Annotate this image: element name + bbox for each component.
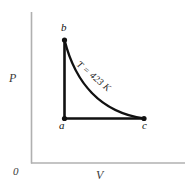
diagram-canvas: [0, 0, 185, 185]
point-label-c: c: [142, 120, 147, 131]
pv-diagram-figure: P V 0 b a c T = 423 K: [0, 0, 185, 185]
y-axis-label: P: [9, 72, 16, 84]
origin-label: 0: [13, 166, 19, 177]
point-label-a: a: [59, 120, 65, 131]
x-axis-label: V: [96, 169, 103, 181]
point-label-b: b: [61, 22, 67, 33]
point-marker-b: [62, 37, 67, 42]
